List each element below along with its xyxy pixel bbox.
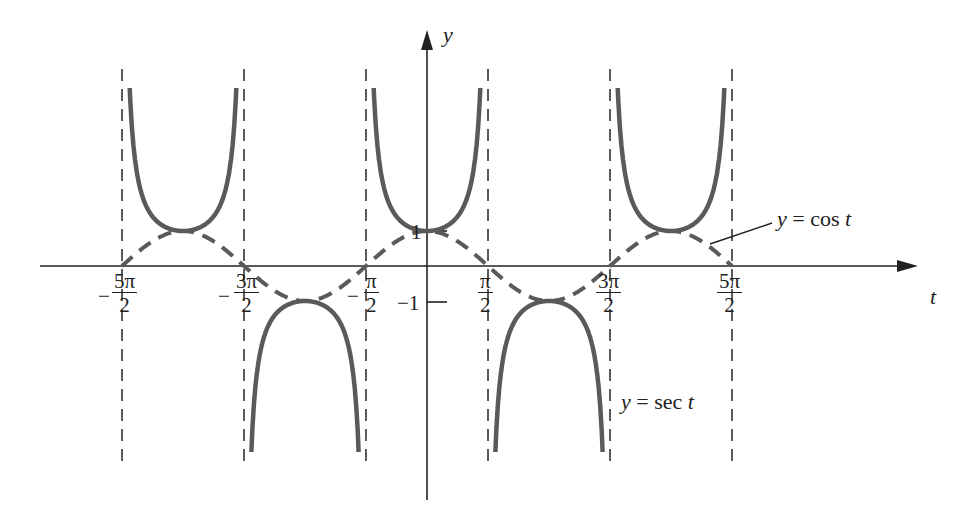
x-axis-arrow-icon (897, 260, 918, 272)
y-tick-label-1: 1 (411, 222, 422, 243)
sec-cos-plot (0, 0, 956, 511)
y-tick-label-neg-1: −1 (397, 293, 419, 314)
sec-branch (618, 88, 725, 231)
minus-sign: − (98, 284, 110, 309)
minus-sign: − (347, 284, 359, 309)
tick-label-neg-pi-2: π 2 (364, 270, 379, 317)
x-axis-label: t (930, 286, 936, 308)
minus-sign: − (218, 284, 230, 309)
y-axis-arrow-icon (421, 30, 433, 50)
tick-label-neg-3pi-2: 3π 2 (234, 270, 259, 317)
sec-branch (130, 88, 237, 231)
sec-branch (495, 301, 602, 452)
sec-branch (251, 301, 358, 452)
tick-label-3pi-2: 3π 2 (596, 270, 621, 317)
tick-label-5pi-2: 5π 2 (717, 270, 742, 317)
y-axis-label: y (443, 24, 453, 46)
tick-label-neg-5pi-2: 5π 2 (112, 270, 137, 317)
cos-label-pointer (710, 223, 772, 244)
cos-legend-label: y = cos t (777, 208, 851, 230)
sec-legend-label: y = sec t (621, 391, 694, 413)
tick-label-pi-2: π 2 (478, 270, 493, 317)
